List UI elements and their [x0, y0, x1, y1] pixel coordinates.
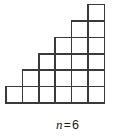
cell: [22, 70, 38, 86]
cell: [72, 37, 88, 53]
cell: [6, 87, 22, 103]
cell: [88, 54, 104, 70]
cell: [88, 5, 104, 21]
caption-line-n: n=6: [0, 104, 113, 137]
caption: n=6 N=54: [0, 104, 113, 137]
staircase-cells: [6, 5, 104, 103]
cell: [88, 21, 104, 37]
equals-sign-n: =: [63, 118, 72, 132]
cell: [88, 37, 104, 53]
variable-n-symbol: n: [56, 117, 63, 132]
staircase-diagram: [0, 0, 113, 106]
cell: [39, 87, 55, 103]
cell: [55, 37, 71, 53]
cell: [88, 87, 104, 103]
cell: [55, 87, 71, 103]
value-n: 6: [72, 118, 79, 132]
cell: [39, 54, 55, 70]
cell: [72, 70, 88, 86]
staircase-figure: n=6 N=54: [0, 0, 113, 137]
cell: [88, 70, 104, 86]
cell: [39, 70, 55, 86]
cell: [55, 70, 71, 86]
staircase-svg: [0, 0, 113, 106]
cell: [72, 54, 88, 70]
cell: [72, 21, 88, 37]
cell: [72, 87, 88, 103]
cell: [22, 87, 38, 103]
cell: [55, 54, 71, 70]
